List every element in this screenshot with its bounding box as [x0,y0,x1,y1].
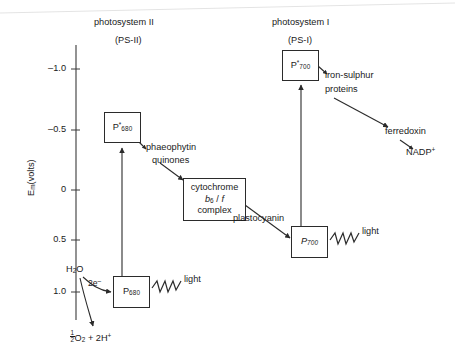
cytochrome-line-3: complex [197,205,231,217]
electron-minus: – [98,277,102,284]
label-light-ps2: light [184,274,201,284]
label-phaeophytin: phaeophytin [146,142,196,152]
label-iron-sulphur-line2: proteins [325,84,358,94]
cytochrome-f: f [221,194,224,204]
box-p680: P680 [113,276,150,308]
label-quinones: quinones [152,155,189,165]
scan-artifact-line [0,3,455,13]
proton-plus: + [108,332,112,339]
label-iron-sulphur-line1: iron-sulphur [325,70,374,80]
axis-tick-label-1: 1.0 [34,286,66,296]
cytochrome-line-2: b6 / f [205,194,224,206]
cytochrome-line-1: cytochrome [191,182,239,194]
axis-title-units: (volts) [26,159,36,184]
p680star-subscript: 680 [121,126,132,133]
box-p700-text: P700 [301,236,318,248]
arrow-iron-sulphur-to-ferredoxin [334,98,388,127]
axis-tick-label-neg05: –0.5 [34,124,66,134]
p680-subscript: 680 [129,290,140,297]
box-p680-text: P680 [123,286,140,298]
oxygen-plus-2h: + 2H [85,333,107,343]
photosystem-2-title: photosystem II [94,17,154,27]
p700-subscript: 700 [307,240,318,247]
label-plastocyanin: plastocyanin [233,213,284,223]
box-p700-star-text: P*700 [291,59,311,71]
nadp-plus: + [432,146,436,153]
box-p700: P700 [291,226,328,258]
water-h: H [66,264,73,274]
box-p680-star: P*680 [104,112,141,143]
axis-tick-label-neg1: –1.0 [34,63,66,73]
label-two-electrons: 2e– [88,277,101,288]
light-squiggle-ps1 [330,233,359,244]
label-nadp: NADP+ [406,146,435,157]
p700star-subscript: 700 [299,64,310,71]
axis-tick-label-05: 0.5 [34,234,66,244]
z-scheme-diagram: photosystem II (PS-II) photosystem I (PS… [0,0,455,361]
two-electrons-text: 2e [88,278,98,288]
label-water: H2O [66,264,83,275]
label-ferredoxin: ferredoxin [385,126,426,136]
box-p700-star: P*700 [282,50,319,81]
label-light-ps1: light [362,226,379,236]
water-o: O [76,264,83,274]
oxygen-o: O [75,333,82,343]
photosystem-1-title: photosystem I [272,17,329,27]
arrow-quinones-to-cytochrome [160,163,183,180]
nadp-text: NADP [406,147,432,157]
photosystem-2-abbrev: (PS-II) [115,35,142,45]
axis-tick-label-zero: 0 [34,184,66,194]
light-squiggle-ps2 [152,281,181,292]
label-oxygen-products: 12O2 + 2H+ [70,330,111,344]
photosystem-1-abbrev: (PS-I) [288,35,312,45]
box-p680-star-text: P*680 [113,121,133,133]
